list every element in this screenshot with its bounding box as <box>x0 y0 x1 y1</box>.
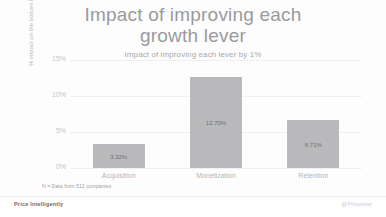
bar-value-label: 6.71% <box>287 142 339 148</box>
bar-group: 3.32%Acquisition <box>93 60 145 168</box>
page-title: Impact of improving each growth lever <box>0 4 386 46</box>
footer-brand: Price Intelligently <box>14 201 63 207</box>
x-axis-category-label: Acquisition <box>75 172 163 179</box>
bar-group: 12.70%Monetization <box>190 60 242 168</box>
title-block: Impact of improving each growth lever <box>0 4 386 46</box>
bar-group: 6.71%Retention <box>287 60 339 168</box>
x-axis-category-label: Retention <box>269 172 357 179</box>
footer-handle: @Priceintel <box>342 201 372 207</box>
chart-plot: 0%5%10%15% 3.32%Acquisition12.70%Monetiz… <box>0 60 386 180</box>
plot-area: 3.32%Acquisition12.70%Monetization6.71%R… <box>70 60 362 168</box>
chart-footnote: N = Data from 512 companies <box>42 183 111 189</box>
y-axis-tick-label: 5% <box>40 127 66 134</box>
y-axis-title: % impact on the bottom line <box>28 0 40 66</box>
gridline <box>70 168 362 169</box>
bar-value-label: 3.32% <box>93 154 145 160</box>
y-axis-tick-label: 15% <box>40 55 66 62</box>
y-axis-tick-label: 10% <box>40 91 66 98</box>
bar-value-label: 12.70% <box>190 120 242 126</box>
x-axis-category-label: Monetization <box>172 172 260 179</box>
footer-bar: Price Intelligently @Priceintel <box>0 196 386 217</box>
slide-canvas: Impact of improving each growth lever Im… <box>0 0 386 217</box>
y-axis-tick-label: 0% <box>40 163 66 170</box>
